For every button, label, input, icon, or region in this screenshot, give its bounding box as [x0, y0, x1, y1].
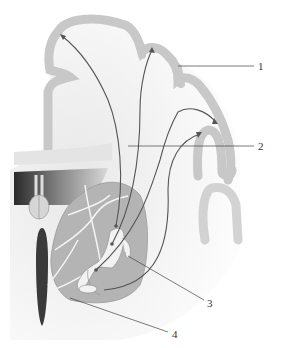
- label-3: 3: [207, 298, 213, 309]
- label-1: 1: [258, 61, 264, 72]
- label-4: 4: [172, 329, 178, 340]
- label-2: 2: [258, 141, 264, 152]
- diagram-canvas: 1 2 3 4: [0, 0, 297, 348]
- brain-section-illustration: [0, 0, 297, 348]
